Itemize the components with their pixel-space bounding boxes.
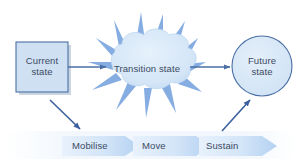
current-state-box[interactable] (16, 42, 68, 92)
arrow-sustain-to-future (222, 100, 250, 131)
chevron-sustain[interactable] (199, 136, 277, 156)
diagram-canvas: Current state Transition state Future st… (0, 0, 303, 163)
arrow-current-to-mobilise (50, 100, 80, 129)
future-state-circle[interactable] (232, 36, 292, 96)
diagram-graphics (0, 0, 303, 163)
chevron-mobilise[interactable] (62, 136, 140, 156)
transition-state-cloud (111, 29, 196, 89)
